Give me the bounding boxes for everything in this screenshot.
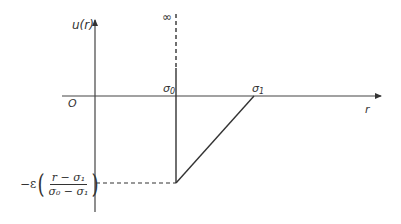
y-axis-label: u(r) — [72, 18, 94, 32]
depth-formula: −ε ( r − σ₁ σ₀ − σ₁ ) — [20, 167, 101, 201]
sigma0-label: σ0 — [163, 82, 175, 96]
linear-ramp — [176, 96, 254, 183]
denominator: σ₀ − σ₁ — [46, 185, 90, 198]
x-axis-label: r — [365, 103, 371, 116]
close-paren: ) — [92, 171, 99, 197]
numerator: r − σ₁ — [50, 171, 87, 185]
sigma1-label: σ1 — [252, 82, 264, 96]
origin-label: O — [68, 97, 77, 110]
open-paren: ( — [38, 171, 45, 197]
fraction: r − σ₁ σ₀ − σ₁ — [46, 171, 90, 198]
infinity-label: ∞ — [162, 10, 172, 24]
epsilon-prefix: −ε — [20, 177, 36, 191]
